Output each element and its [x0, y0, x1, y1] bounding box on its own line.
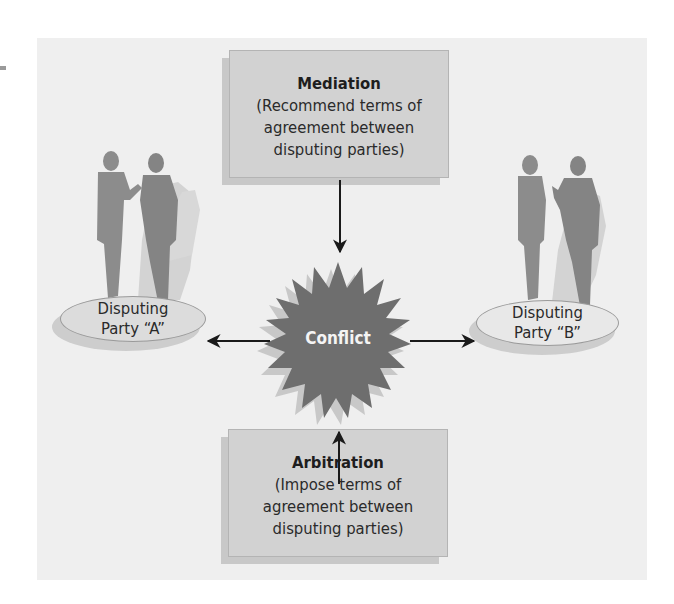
- party-a-line-2: Party “A”: [61, 319, 205, 339]
- party-a-ellipse: Disputing Party “A”: [60, 296, 206, 342]
- party-b-line-1: Disputing: [477, 303, 618, 323]
- party-a-line-1: Disputing: [61, 299, 205, 319]
- party-b-line-2: Party “B”: [477, 323, 618, 343]
- conflict-label: Conflict: [288, 328, 388, 348]
- people-silhouette-b-icon: [518, 155, 606, 306]
- people-silhouette-a-icon: [97, 151, 200, 302]
- party-b-ellipse: Disputing Party “B”: [476, 300, 619, 346]
